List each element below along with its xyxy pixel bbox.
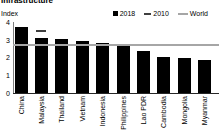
bar-philippines [117,46,130,93]
x-axis-label-indonesia: Indonesia [98,96,107,137]
world-line-swatch-icon [178,13,188,15]
world-reference-line [13,44,219,46]
y-tick-label-4: 4 [0,18,10,27]
x-axis-label-lao-pdr: Lao PDR [139,96,148,137]
legend-item-world: World [178,10,208,17]
bar-indonesia [96,43,109,93]
y-tick-label-2: 2 [0,53,10,62]
x-axis-label-china: China [17,96,26,137]
y-axis-unit-label: Index [1,10,18,17]
x-axis-label-thailand: Thailand [57,96,66,137]
legend-label-world: World [190,10,208,17]
legend: 2018 2010 World [113,10,208,17]
bar-cambodia [157,57,170,93]
x-axis-line [13,93,219,94]
bar-lao-pdr [137,51,150,93]
legend-item-2010: 2010 [144,10,169,17]
y-tick-label-1: 1 [0,71,10,80]
x-axis-label-vietnam: Vietnam [78,96,87,137]
y-tick-label-0: 0 [0,89,10,98]
bar-china [15,27,28,93]
x-axis-label-myanmar: Myanmar [200,96,209,137]
bar-vietnam [76,41,89,93]
infrastructure-chart: Infrastructure Index 2018 2010 World 012… [0,0,219,138]
x-axis-label-malaysia: Malaysia [37,96,46,137]
marker-2010-malaysia [36,30,46,32]
chart-title: Infrastructure [1,0,53,5]
legend-label-2010: 2010 [153,10,169,17]
x-axis-label-mongolia: Mongolia [180,96,189,137]
bar-mongolia [178,58,191,93]
bar-swatch-icon [113,11,118,16]
y-tick-label-3: 3 [0,36,10,45]
x-axis-label-cambodia: Cambodia [159,96,168,137]
legend-item-2018: 2018 [113,10,136,17]
bar-thailand [55,39,68,93]
x-axis-label-philippines: Philippines [119,96,128,137]
legend-label-2018: 2018 [120,10,136,17]
dash-swatch-icon [144,13,151,15]
bar-myanmar [198,60,211,93]
